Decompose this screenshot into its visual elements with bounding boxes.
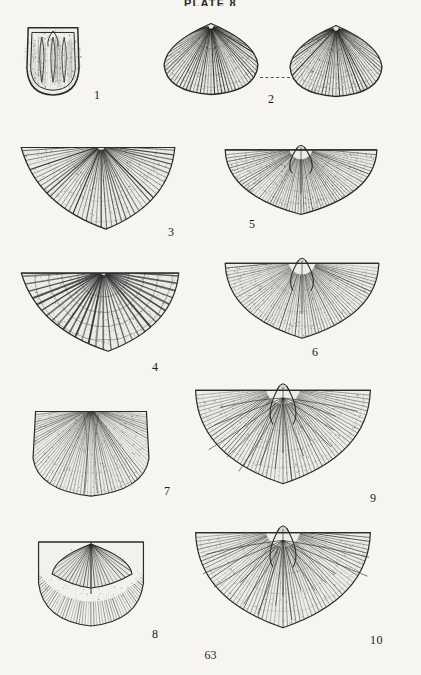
figure-number-5: 5 [249,217,256,232]
figure-number-8: 8 [152,627,159,642]
specimen-figure-6 [222,252,382,340]
figure-number-1: 1 [94,88,101,103]
figure-number-4: 4 [152,360,159,375]
leader-line [260,77,290,78]
specimen-figure-7 [28,404,154,498]
figure-number-7: 7 [164,484,171,499]
specimen-figure-5 [222,140,380,216]
specimen-figure-9 [192,376,374,486]
specimen-figure-2b [286,24,386,98]
specimen-figure-10 [192,518,374,630]
page-number: 63 [0,648,421,663]
specimen-figure-2 [160,22,262,96]
figure-number-9: 9 [370,491,377,506]
plate-page: PLATE 8 12345678910 63 [0,0,421,675]
specimen-figure-4 [18,262,182,354]
plate-header: PLATE 8 [0,0,421,6]
specimen-figure-1 [22,20,84,98]
figure-number-10: 10 [370,633,383,648]
figure-number-2: 2 [268,92,275,107]
specimen-figure-8 [34,528,148,628]
specimen-figure-3 [18,136,178,232]
figure-number-3: 3 [168,225,175,240]
figure-number-6: 6 [312,345,319,360]
